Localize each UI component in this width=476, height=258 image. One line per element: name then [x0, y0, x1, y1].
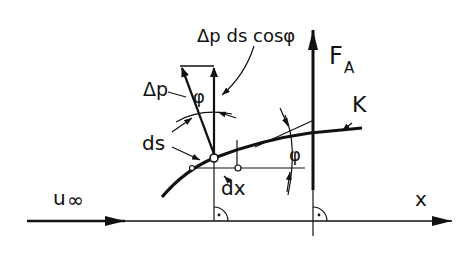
right-angle-mark-right — [313, 207, 327, 221]
label-phi-top: φ — [193, 86, 205, 107]
ds-point — [210, 154, 218, 162]
dp-ds-cos-leader — [222, 46, 254, 95]
label-dp: Δp — [143, 78, 168, 100]
dp-leader — [168, 92, 186, 97]
label-force-sub: A — [344, 59, 355, 77]
pressure-arrow-dp — [182, 68, 214, 154]
label-dp-ds-cos: Δp ds cosφ — [197, 25, 295, 46]
label-phi-right: φ — [289, 144, 301, 165]
label-dx: dx — [221, 176, 246, 200]
angle-arc-arrow-left — [172, 118, 192, 132]
label-freestream-sub: ∞ — [67, 188, 84, 212]
label-force: F — [329, 42, 343, 70]
label-ds: ds — [142, 131, 165, 155]
label-contour-k: K — [352, 92, 367, 117]
right-angle-mark-left — [214, 207, 228, 221]
ds-start-point — [190, 166, 195, 171]
diagram-canvas: Δp ds cosφ Δp φ φ ds dx F A K u ∞ x — [0, 0, 476, 258]
contour-curve-k — [162, 128, 362, 197]
label-x-axis: x — [415, 187, 427, 211]
dx-end-point — [235, 165, 241, 171]
label-freestream: u — [53, 186, 66, 210]
angle-arrow-right-top — [280, 108, 288, 126]
ds-leader — [172, 147, 200, 160]
